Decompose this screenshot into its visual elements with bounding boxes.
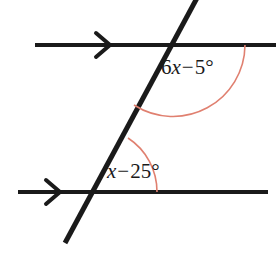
lower-angle-degree-symbol: ° bbox=[151, 159, 159, 183]
geometry-figure: 6x−5° x−25° bbox=[0, 0, 276, 254]
lower-angle-label: x−25° bbox=[107, 161, 160, 182]
lower-angle-operator: − bbox=[116, 159, 130, 183]
upper-angle-degree-symbol: ° bbox=[205, 55, 213, 79]
upper-angle-constant: 5 bbox=[195, 55, 206, 79]
upper-angle-label: 6x−5° bbox=[161, 57, 214, 78]
transversal-line bbox=[65, 0, 197, 243]
lower-angle-variable: x bbox=[107, 159, 116, 183]
upper-angle-variable: x bbox=[172, 55, 181, 79]
lower-angle-constant: 25 bbox=[130, 159, 151, 183]
upper-angle-coefficient: 6 bbox=[161, 55, 172, 79]
figure-canvas bbox=[0, 0, 276, 254]
upper-angle-operator: − bbox=[181, 55, 195, 79]
